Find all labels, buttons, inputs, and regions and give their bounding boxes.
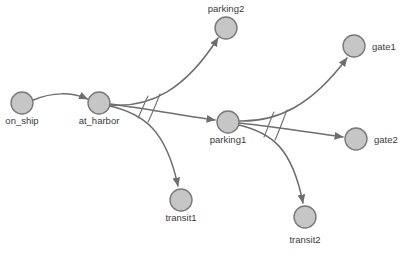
node-label-at_harbor: at_harbor [79,115,120,126]
node-transit1[interactable] [170,189,192,211]
node-labels-layer: on_shipat_harborparking2parking1transit1… [5,3,397,245]
node-parking1[interactable] [217,111,239,133]
node-gate2[interactable] [345,128,367,150]
graph-svg: on_shipat_harborparking2parking1transit1… [0,0,407,255]
node-parking2[interactable] [215,17,237,39]
node-label-parking2: parking2 [208,3,244,14]
node-label-gate1: gate1 [372,41,396,52]
edge-parking1-transit2[interactable] [239,125,303,203]
edge-at_harbor-parking2[interactable] [110,38,218,105]
edge-on_ship-at_harbor[interactable] [34,94,88,100]
arc-parking1-a [264,112,274,137]
node-gate1[interactable] [343,35,365,57]
node-on_ship[interactable] [11,92,33,114]
diagram-canvas: on_shipat_harborparking2parking1transit1… [0,0,407,255]
nodes-layer [11,17,367,228]
arc-at_harbor-a [138,96,148,118]
edge-parking1-gate1[interactable] [239,58,347,121]
edge-at_harbor-transit1[interactable] [110,106,178,186]
node-transit2[interactable] [294,206,316,228]
node-label-transit1: transit1 [165,212,196,223]
node-label-gate2: gate2 [374,134,398,145]
node-at_harbor[interactable] [88,92,110,114]
node-label-parking1: parking1 [210,134,246,145]
node-label-on_ship: on_ship [5,115,38,126]
edge-at_harbor-parking1[interactable] [110,104,215,120]
node-label-transit2: transit2 [289,234,320,245]
